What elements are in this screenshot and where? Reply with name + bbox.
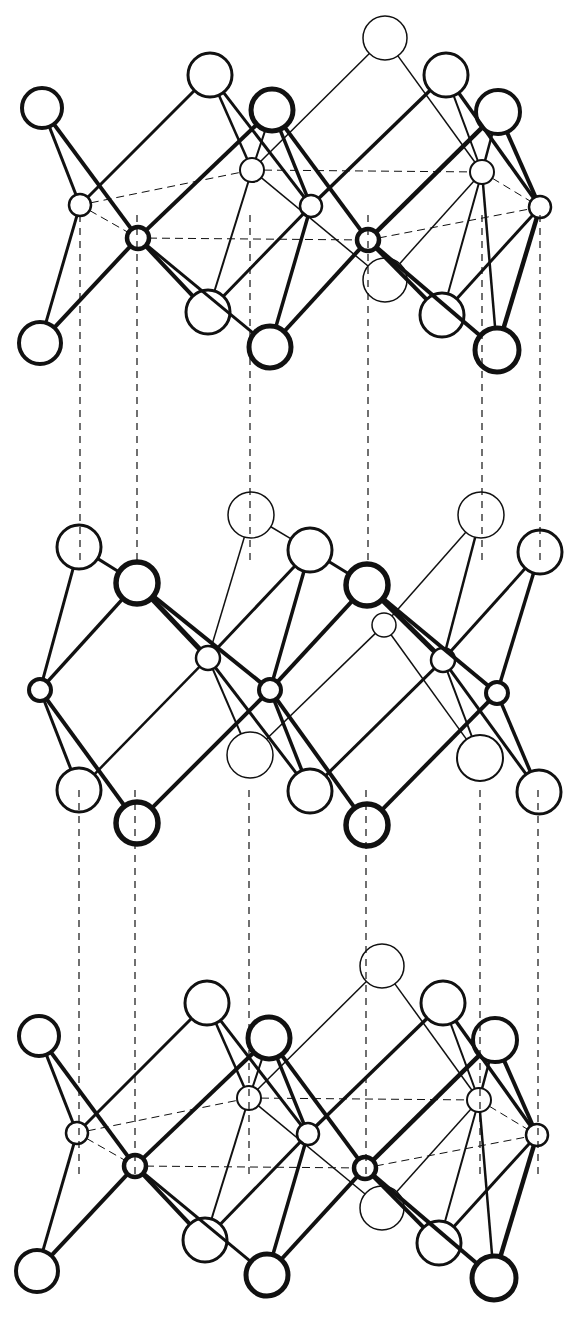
anion-atom-icon <box>57 525 101 569</box>
cation-atom-icon <box>69 194 91 216</box>
bond-line <box>383 598 488 686</box>
anion-atom-icon <box>227 732 273 778</box>
dashed-bond <box>90 210 129 232</box>
anion-atom-icon <box>346 804 388 846</box>
anion-atom-icon <box>183 1218 227 1262</box>
bond-line <box>480 1112 492 1256</box>
bond-line <box>151 598 199 649</box>
bond-line <box>373 1055 479 1160</box>
anion-atom-icon <box>518 530 562 574</box>
bond-line <box>326 668 435 775</box>
dashed-bond <box>376 1137 526 1166</box>
cation-atom-icon <box>529 196 551 218</box>
cation-atom-icon <box>467 1088 491 1112</box>
anion-atom-icon <box>288 769 332 813</box>
bond-line <box>146 125 257 231</box>
bond-line <box>454 1143 530 1227</box>
anion-atom-icon <box>185 981 229 1025</box>
anion-atom-icon <box>363 258 407 302</box>
cation-atom-icon <box>66 1122 88 1144</box>
anion-atom-icon <box>363 16 407 60</box>
anion-atom-icon <box>420 293 464 337</box>
bond-line <box>47 599 123 682</box>
bond-line <box>88 91 195 198</box>
bond-line <box>211 537 244 646</box>
cation-atom-icon <box>372 613 396 637</box>
anion-atom-icon <box>57 768 101 812</box>
anion-atom-icon <box>417 1221 461 1265</box>
dashed-bond <box>489 1106 527 1129</box>
anion-atom-icon <box>248 1017 290 1059</box>
bond-line <box>85 1019 192 1126</box>
cation-atom-icon <box>29 679 51 701</box>
bond-line <box>273 571 304 679</box>
bond-line <box>261 178 368 266</box>
bond-line <box>143 1053 254 1159</box>
anion-atom-icon <box>458 492 504 538</box>
anion-atom-icon <box>476 90 520 134</box>
bond-line <box>143 1174 190 1224</box>
cation-atom-icon <box>237 1086 261 1110</box>
bond-line <box>43 568 73 679</box>
anion-atom-icon <box>346 564 388 606</box>
bottom-layer <box>16 944 548 1300</box>
cation-atom-icon <box>240 158 264 182</box>
cation-atom-icon <box>124 1155 146 1177</box>
anion-atom-icon <box>472 1256 516 1300</box>
cation-atom-icon <box>486 682 508 704</box>
dashed-bond <box>379 209 529 238</box>
anion-atom-icon <box>288 528 332 572</box>
anion-atom-icon <box>473 1018 517 1062</box>
cation-atom-icon <box>297 1123 319 1145</box>
anion-atom-icon <box>22 88 62 128</box>
crystal-structure-diagram <box>0 0 583 1318</box>
bond-line <box>258 1106 365 1194</box>
cation-atom-icon <box>526 1124 548 1146</box>
bond-line <box>500 1146 533 1257</box>
bond-line <box>329 562 349 574</box>
anion-atom-icon <box>19 1016 59 1056</box>
bond-line <box>271 527 291 539</box>
cation-atom-icon <box>196 646 220 670</box>
bond-line <box>391 635 467 740</box>
anion-atom-icon <box>475 328 519 372</box>
cation-atom-icon <box>127 227 149 249</box>
anion-atom-icon <box>360 944 404 988</box>
cation-atom-icon <box>354 1157 376 1179</box>
bond-line <box>146 246 193 296</box>
top-layer <box>19 16 551 372</box>
anion-atom-icon <box>116 562 158 604</box>
bond-line <box>98 559 119 572</box>
cation-atom-icon <box>431 648 455 672</box>
anion-atom-icon <box>246 1254 288 1296</box>
bond-line <box>94 667 199 775</box>
bond-line <box>316 1018 427 1126</box>
bond-line <box>281 1055 358 1159</box>
anion-atom-icon <box>424 53 468 97</box>
anion-atom-icon <box>360 1186 404 1230</box>
bond-line <box>54 124 132 229</box>
bond-line <box>446 537 475 648</box>
bond-line <box>392 532 466 616</box>
anion-atom-icon <box>421 981 465 1025</box>
dashed-bond <box>146 1166 354 1168</box>
anion-atom-icon <box>457 735 503 781</box>
bond-line <box>445 1112 476 1222</box>
bond-line <box>503 218 536 329</box>
cation-atom-icon <box>357 229 379 251</box>
dashed-bond <box>87 1138 126 1160</box>
structure-svg <box>0 0 583 1318</box>
dashed-bond <box>91 172 240 202</box>
bond-line <box>448 184 479 294</box>
anion-atom-icon <box>116 802 158 844</box>
dashed-bond <box>492 178 530 201</box>
anion-atom-icon <box>249 326 291 368</box>
cation-atom-icon <box>300 195 322 217</box>
dashed-bond <box>88 1100 237 1130</box>
anion-atom-icon <box>16 1250 58 1292</box>
bond-line <box>284 127 361 231</box>
bond-line <box>277 600 352 681</box>
cation-atom-icon <box>470 160 494 184</box>
atom-layers <box>16 16 562 1300</box>
bond-line <box>376 127 482 232</box>
